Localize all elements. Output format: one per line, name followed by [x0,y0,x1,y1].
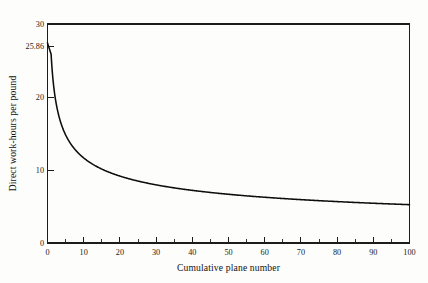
y-axis-title: Direct work-hours per pound [7,76,18,192]
plot-frame [48,24,410,243]
y-axis-tick-labels: 0 10 20 25.86 30 [26,20,44,248]
y-tick-label-10: 10 [36,166,44,175]
x-tick-label-90: 90 [369,248,377,257]
x-tick-label-20: 20 [116,248,124,257]
x-axis-title: Cumulative plane number [177,262,281,273]
x-tick-label-60: 60 [261,248,269,257]
x-axis-tick-labels: 0 10 20 30 40 50 60 70 80 90 100 [45,248,415,257]
x-tick-label-30: 30 [152,248,160,257]
x-tick-label-80: 80 [333,248,341,257]
learning-curve-line [48,43,410,205]
x-tick-label-50: 50 [224,248,232,257]
y-tick-label-20: 20 [36,93,44,102]
y-tick-label-25-86: 25.86 [26,42,44,51]
x-tick-label-100: 100 [403,248,415,257]
x-tick-label-70: 70 [297,248,305,257]
x-tick-label-0: 0 [45,248,49,257]
x-tick-label-10: 10 [80,248,88,257]
x-tick-label-40: 40 [188,248,196,257]
figure-canvas: 0 10 20 25.86 30 [0,0,428,283]
learning-curve-chart: 0 10 20 25.86 30 [0,0,428,283]
y-tick-label-0: 0 [40,239,44,248]
y-tick-label-30: 30 [36,20,44,29]
